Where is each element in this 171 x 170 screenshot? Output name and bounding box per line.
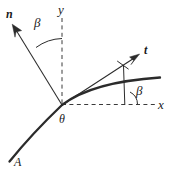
curve-endpoint-label: A <box>14 156 21 168</box>
beta-tangent-vertical-tick <box>124 66 125 105</box>
normal-vector-label: n <box>6 8 13 20</box>
diagram-canvas <box>0 0 171 170</box>
tangent-vector-label: t <box>144 44 147 56</box>
beta-normal-arc <box>36 39 62 48</box>
tangent-vector-arrowhead <box>130 54 140 65</box>
vector-diagram-figure: n t y x β β θ A <box>0 0 171 170</box>
normal-vector-shaft <box>16 30 62 105</box>
normal-vector-arrowhead <box>12 24 21 37</box>
theta-label: θ <box>59 113 65 125</box>
y-axis-label: y <box>58 3 64 16</box>
x-axis-label: x <box>158 98 164 111</box>
beta-normal-label: β <box>34 16 40 29</box>
beta-tangent-label: β <box>136 84 142 97</box>
